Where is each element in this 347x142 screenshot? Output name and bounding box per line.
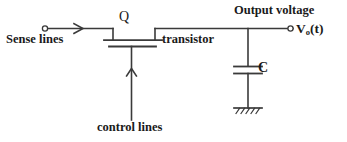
output-voltage-label: Output voltage xyxy=(234,4,314,17)
schematic-svg xyxy=(0,0,347,142)
output-node-subscript: o xyxy=(306,27,310,37)
circuit-diagram-canvas: Sense lines Q transistor control lines O… xyxy=(0,0,347,142)
output-node-argument: (t) xyxy=(310,21,324,36)
sense-lines-label: Sense lines xyxy=(6,33,63,46)
transistor-designator-label: Q xyxy=(119,10,129,24)
output-terminal-icon xyxy=(288,26,293,31)
earth-ground-icon xyxy=(234,108,262,114)
output-node-label: Vo(t) xyxy=(296,22,324,36)
transistor-label: transistor xyxy=(162,33,214,46)
sense-input-terminal-icon xyxy=(42,26,47,31)
output-node-symbol: V xyxy=(296,21,306,36)
capacitor-label: C xyxy=(258,61,268,75)
control-lines-label: control lines xyxy=(97,121,162,134)
